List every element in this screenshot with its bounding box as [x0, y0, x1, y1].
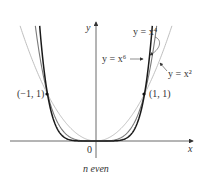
point-left	[45, 92, 48, 95]
y-axis-label: y	[86, 23, 90, 33]
origin-label: 0	[87, 145, 92, 155]
point-right-label: (1, 1)	[149, 89, 171, 99]
point-left-label: (−1, 1)	[17, 89, 44, 99]
chart: y x 0 (−1, 1) (1, 1) y = x⁴ y = x⁶ y = x…	[0, 0, 203, 184]
x2-label: y = x²	[168, 69, 192, 79]
x4-label: y = x⁴	[133, 27, 157, 37]
x-axis-label: x	[188, 144, 192, 154]
caption: n even	[83, 164, 109, 174]
x6-label: y = x⁶	[102, 54, 126, 64]
x2-pointer	[160, 63, 167, 71]
point-right	[142, 92, 145, 95]
